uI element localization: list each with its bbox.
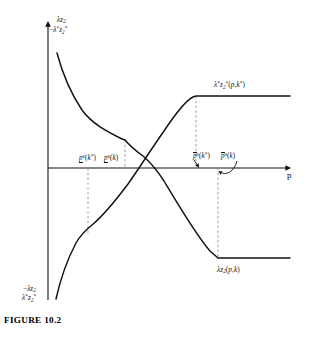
curve-label-lower: λz2(p,k) <box>217 266 240 275</box>
plot-canvas <box>0 0 310 338</box>
y-axis-label-bottom-line2: λ*z2* <box>22 294 36 303</box>
y-axis-label-top-line2: −λ*z2* <box>49 26 68 35</box>
leader-arrow-p-bar-k <box>220 161 237 174</box>
figure-caption: FIGURE 10.2 <box>4 315 61 325</box>
label-p-under-k: ps(k) <box>104 154 118 163</box>
figure-container: λz2 −λ*z2* −λz2 λ*z2* p ps(k*) ps(k) ps(… <box>0 0 310 338</box>
label-p-bar-kstar: ps(k*) <box>193 152 210 160</box>
x-axis-label: p <box>287 170 292 180</box>
label-p-under-kstar: ps(k*) <box>79 154 96 163</box>
curve-label-upper: λ*z2*(p,k*) <box>214 81 245 90</box>
y-axis-label-top-line1: λz2 <box>57 16 66 25</box>
label-p-bar-k: ps(k) <box>221 152 235 160</box>
curve-increasing-lambda-star-z2-star <box>56 96 290 299</box>
